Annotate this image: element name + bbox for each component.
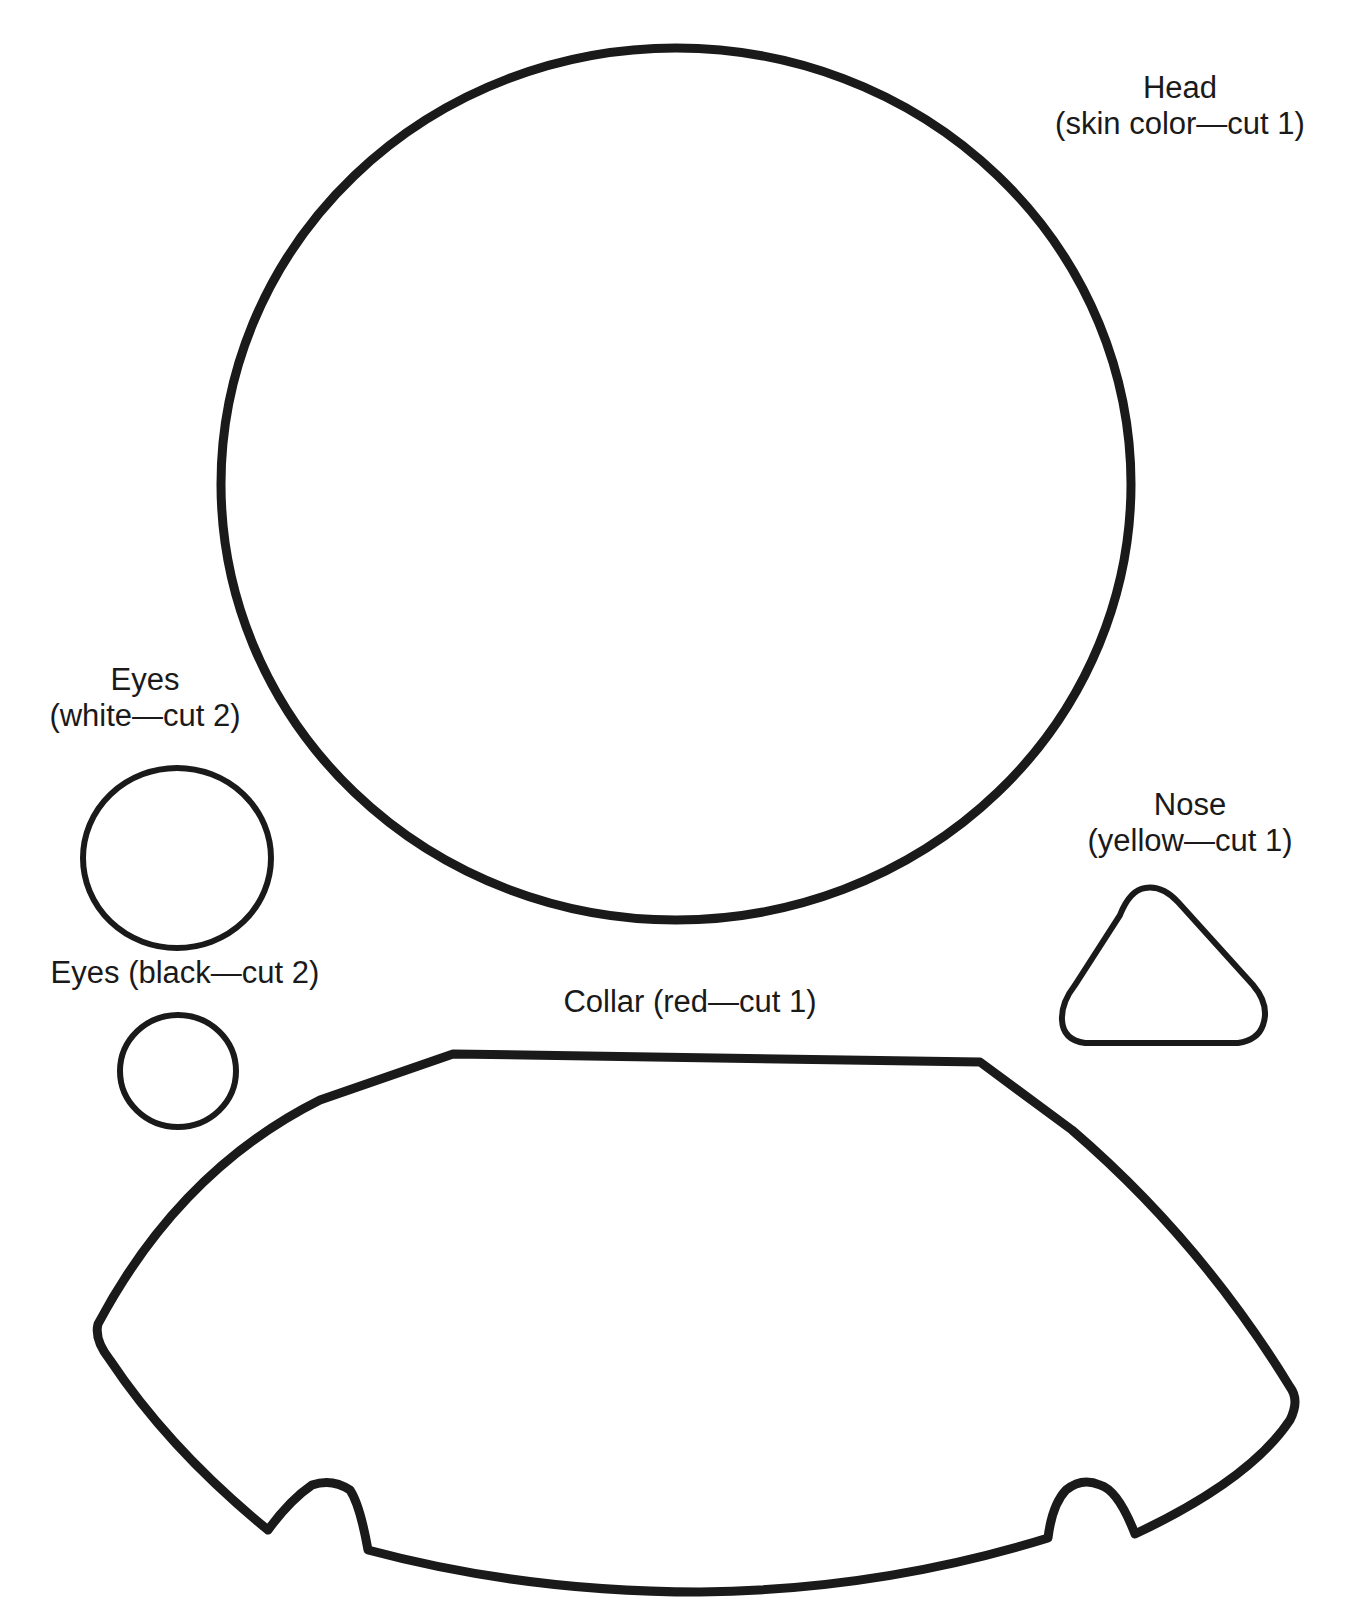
nose-label: Nose (yellow—cut 1) xyxy=(1040,787,1340,859)
eyes-black-label: Eyes (black—cut 2) xyxy=(10,955,360,991)
head-label: Head (skin color—cut 1) xyxy=(1020,70,1340,142)
head-label-name: Head xyxy=(1020,70,1340,106)
eyes-white-label-name: Eyes xyxy=(0,662,290,698)
eyes-white-label-instruction: (white—cut 2) xyxy=(0,698,290,734)
head-shape xyxy=(221,48,1131,920)
nose-shape xyxy=(1062,888,1265,1043)
nose-label-instruction: (yellow—cut 1) xyxy=(1040,823,1340,859)
collar-label: Collar (red—cut 1) xyxy=(530,984,850,1020)
eyes-white-label: Eyes (white—cut 2) xyxy=(0,662,290,734)
eye-black-shape xyxy=(120,1015,236,1127)
collar-shape xyxy=(97,1054,1295,1592)
eye-white-shape xyxy=(83,768,271,948)
nose-label-name: Nose xyxy=(1040,787,1340,823)
head-label-instruction: (skin color—cut 1) xyxy=(1020,106,1340,142)
